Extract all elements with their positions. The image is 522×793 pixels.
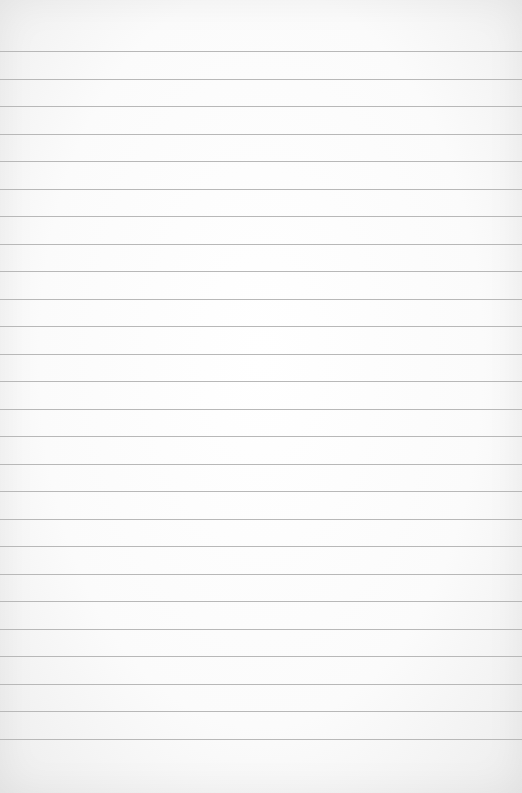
ruled-line bbox=[0, 409, 522, 410]
ruled-line bbox=[0, 106, 522, 107]
ruled-line bbox=[0, 739, 522, 740]
ruled-line bbox=[0, 354, 522, 355]
ruled-line bbox=[0, 574, 522, 575]
ruled-line bbox=[0, 299, 522, 300]
ruled-line bbox=[0, 491, 522, 492]
lined-paper-sheet bbox=[0, 0, 522, 793]
ruled-line bbox=[0, 244, 522, 245]
ruled-line bbox=[0, 629, 522, 630]
ruled-line bbox=[0, 684, 522, 685]
ruled-line bbox=[0, 189, 522, 190]
ruled-line bbox=[0, 216, 522, 217]
ruled-line bbox=[0, 436, 522, 437]
ruled-line bbox=[0, 381, 522, 382]
ruled-line bbox=[0, 711, 522, 712]
paper-vignette bbox=[0, 0, 522, 793]
ruled-line bbox=[0, 79, 522, 80]
ruled-line bbox=[0, 271, 522, 272]
ruled-line bbox=[0, 464, 522, 465]
ruled-line bbox=[0, 134, 522, 135]
ruled-line bbox=[0, 161, 522, 162]
ruled-line bbox=[0, 519, 522, 520]
ruled-line bbox=[0, 326, 522, 327]
ruled-line bbox=[0, 656, 522, 657]
ruled-line bbox=[0, 51, 522, 52]
ruled-line bbox=[0, 601, 522, 602]
ruled-line bbox=[0, 546, 522, 547]
